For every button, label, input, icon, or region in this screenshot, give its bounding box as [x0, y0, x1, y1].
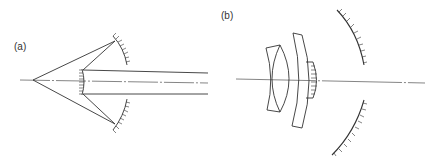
optics-diagram [0, 0, 435, 160]
lens-cemented-surface [272, 45, 280, 112]
panel-a-diagram [20, 33, 208, 133]
primary-mirror-upper [113, 36, 127, 65]
ray-upper [33, 41, 115, 80]
ray-lower [33, 80, 115, 124]
meniscus-lens-front [266, 45, 289, 112]
optical-axis-b [236, 79, 425, 83]
secondary-element [306, 62, 317, 98]
primary-mirror-lower [113, 99, 127, 130]
panel-b-diagram [236, 9, 425, 156]
ray-upper-reflected [83, 41, 115, 70]
optical-axis-a [20, 80, 208, 83]
main-mirror-lower [332, 100, 364, 155]
